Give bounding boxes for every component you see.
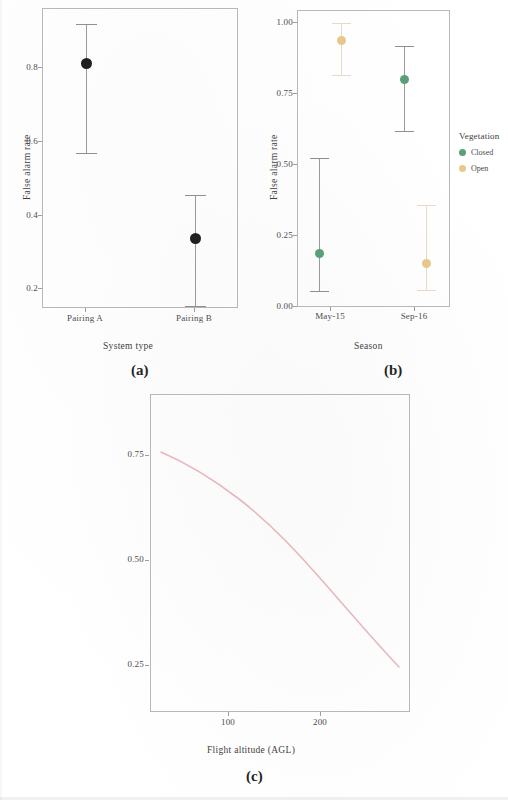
datapoint-sep16-closed xyxy=(400,75,409,84)
errorbar-cap-top-pairing-b xyxy=(185,195,206,196)
errorbar-cap-top-may15-open xyxy=(332,23,351,24)
errorbar-cap-top-sep16-open xyxy=(417,205,436,206)
panel-a-ytick-label-1: 0.4 xyxy=(14,210,38,220)
panel-b-ytick-label-2: 0.50 xyxy=(261,159,293,169)
panel-b-xtick-label-0: May-15 xyxy=(304,311,356,321)
panel-a: False alarm rate 0.2 0.4 0.6 0.8 Pairing… xyxy=(0,0,250,390)
panel-a-plot-area xyxy=(42,8,238,308)
errorbar-cap-bottom-may15-closed xyxy=(310,291,329,292)
panel-c-ytick-mark-2 xyxy=(145,455,149,456)
errorbar-sep16-closed xyxy=(404,46,405,131)
figure-root: False alarm rate 0.2 0.4 0.6 0.8 Pairing… xyxy=(0,0,508,800)
panel-b-plot-area xyxy=(297,10,450,307)
panel-c-caption: (c) xyxy=(246,768,263,785)
legend-vegetation: Vegetation Closed Open xyxy=(459,131,500,173)
panel-c-xtick-label-1: 200 xyxy=(298,717,342,727)
panel-b-ytick-label-1: 0.25 xyxy=(261,230,293,240)
panel-b-ytick-label-4: 1.00 xyxy=(261,17,293,27)
datapoint-pairing-b xyxy=(190,233,201,244)
errorbar-cap-bottom-sep16-closed xyxy=(395,131,414,132)
panel-a-xtick-mark-0 xyxy=(85,308,86,312)
datapoint-may15-closed xyxy=(315,249,324,258)
errorbar-cap-top-sep16-closed xyxy=(395,46,414,47)
legend-item-closed[interactable]: Closed xyxy=(459,148,500,157)
legend-label-open: Open xyxy=(471,164,488,173)
panel-b-caption: (b) xyxy=(384,362,402,379)
panel-a-xtick-mark-1 xyxy=(194,308,195,312)
errorbar-pairing-b xyxy=(195,195,196,306)
errorbar-pairing-a xyxy=(86,24,87,153)
panel-b-xtick-label-1: Sep-16 xyxy=(388,311,440,321)
panel-a-ytick-label-3: 0.8 xyxy=(14,62,38,72)
errorbar-cap-bottom-may15-open xyxy=(332,75,351,76)
panel-b: False alarm rate 0.00 0.25 0.50 0.75 1.0… xyxy=(250,0,508,390)
legend-label-closed: Closed xyxy=(471,148,493,157)
errorbar-cap-top-may15-closed xyxy=(310,158,329,159)
panel-a-ytick-label-2: 0.6 xyxy=(14,136,38,146)
datapoint-sep16-open xyxy=(422,259,431,268)
panel-a-caption: (a) xyxy=(131,362,149,379)
panel-c: False alarm rate 0.75 0.50 0.25 100 200 … xyxy=(0,390,508,800)
legend-item-open[interactable]: Open xyxy=(459,164,500,173)
panel-a-xtick-label-1: Pairing B xyxy=(162,313,226,323)
legend-swatch-closed-icon xyxy=(459,149,466,156)
errorbar-may15-closed xyxy=(319,158,320,291)
panel-c-xtick-mark-1 xyxy=(320,712,321,716)
panel-b-ytick-label-3: 0.75 xyxy=(261,88,293,98)
datapoint-pairing-a xyxy=(81,58,92,69)
panel-c-x-axis-title: Flight altitude (AGL) xyxy=(207,745,295,755)
errorbar-cap-top-pairing-a xyxy=(76,24,97,25)
panel-b-ytick-label-0: 0.00 xyxy=(261,301,293,311)
panel-c-ytick-label-0: 0.25 xyxy=(114,659,144,669)
panel-c-ytick-label-2: 0.75 xyxy=(114,449,144,459)
errorbar-may15-open xyxy=(341,23,342,75)
panel-b-x-axis-title: Season xyxy=(354,341,383,351)
legend-title: Vegetation xyxy=(459,131,500,141)
legend-swatch-open-icon xyxy=(459,165,466,172)
panel-a-ytick-label-0: 0.2 xyxy=(14,283,38,293)
panel-a-x-axis-title: System type xyxy=(103,341,153,351)
errorbar-sep16-open xyxy=(426,205,427,290)
panel-c-curve xyxy=(151,395,411,713)
panel-c-ytick-mark-1 xyxy=(145,560,149,561)
panel-c-xtick-label-0: 100 xyxy=(206,717,250,727)
panel-c-ytick-mark-0 xyxy=(145,665,149,666)
errorbar-cap-bottom-pairing-a xyxy=(76,153,97,154)
panel-c-plot-area xyxy=(150,394,410,712)
panel-c-xtick-mark-0 xyxy=(228,712,229,716)
scan-edge-shadow-left xyxy=(0,0,2,800)
panel-a-xtick-label-0: Pairing A xyxy=(53,313,117,323)
panel-c-ytick-label-1: 0.50 xyxy=(114,554,144,564)
errorbar-cap-bottom-pairing-b xyxy=(185,306,206,307)
errorbar-cap-bottom-sep16-open xyxy=(417,290,436,291)
datapoint-may15-open xyxy=(337,36,346,45)
